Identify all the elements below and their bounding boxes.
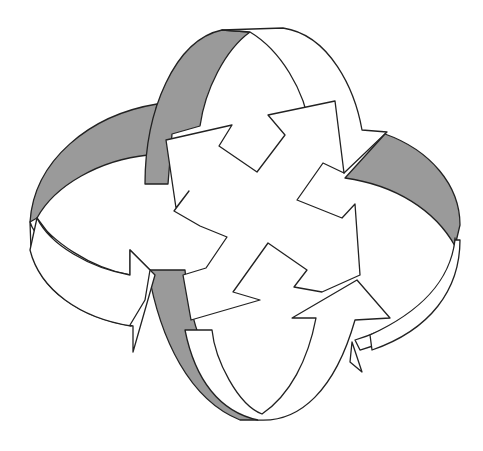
center-cross-arrows <box>166 101 360 320</box>
cycle-arrows-diagram <box>0 0 483 451</box>
left-ring-arrow-body <box>30 218 150 326</box>
right-ring-lower-band <box>370 240 460 350</box>
left-ring-shaded-band <box>30 104 157 222</box>
illustration <box>0 0 483 451</box>
